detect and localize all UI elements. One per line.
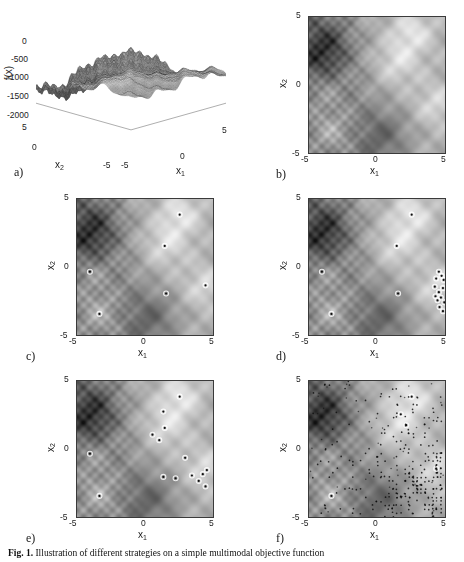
panel-b-xtick-max: 5 [441,155,446,164]
panel-a-xaxis-label: x1 [176,166,185,177]
panel-d-xtick-mid: 0 [373,337,378,346]
panel-e-markers [77,381,213,517]
panel-a-xtick-min: -5 [121,161,129,170]
panel-b-ytick-top: 5 [296,11,301,20]
surface-canvas-wrap [36,6,226,156]
panel-f-yaxis-label: x2 [278,432,289,462]
panel-b-ytick-bot: -5 [292,149,300,158]
panel-a-ytick-top: 5 [22,123,27,132]
panel-f-plot-area [308,380,446,518]
panel-f-ytick-bot: -5 [292,513,300,522]
panel-c-xaxis-label: x1 [138,348,147,359]
panel-a-xtick-mid: 0 [180,152,185,161]
panel-a-ytick-mid: 0 [32,143,37,152]
panel-b-xaxis-label: x1 [370,166,379,177]
panel-a-ztick-1500: -1500 [7,92,29,101]
panel-e-ytick-bot: -5 [60,513,68,522]
panel-b-ytick-mid: 0 [296,80,301,89]
panel-e-yaxis-label: x2 [46,432,57,462]
panel-f-markers [309,381,445,517]
panel-a-ytick-bot: -5 [103,161,111,170]
panel-e-ytick-top: 5 [64,375,69,384]
panel-c-markers [77,199,213,335]
panel-d-yaxis-label: x2 [278,250,289,280]
panel-d-plot-area [308,198,446,336]
panel-b-plot-area [308,16,446,154]
panel-b-letter: b) [276,168,286,180]
panel-f-xtick-mid: 0 [373,519,378,528]
panel-a-letter: a) [14,166,23,178]
panel-e-xtick-min: -5 [69,519,77,528]
figure-container: 0 -500 -1000 -1500 -2000 f(x) 5 0 -5 -5 … [0,0,464,562]
panel-d-letter: d) [276,350,286,362]
panel-e-xtick-mid: 0 [141,519,146,528]
panel-f-ytick-mid: 0 [296,444,301,453]
panel-f-contour-plot: 5 0 -5 -5 0 5 x2 x1 f) [232,364,464,546]
figure-caption: Fig. 1. Illustration of different strate… [8,548,460,562]
panel-f-letter: f) [276,532,284,544]
panel-a-xtick-max: 5 [222,126,227,135]
panel-d-xtick-max: 5 [441,337,446,346]
panel-c-plot-area [76,198,214,336]
panel-d-ytick-top: 5 [296,193,301,202]
panel-b-contour-plot: 5 0 -5 -5 0 5 x2 x1 b) [232,0,464,182]
figure-caption-label: Fig. 1. [8,548,33,558]
panel-e-xtick-max: 5 [209,519,214,528]
panel-c-ytick-bot: -5 [60,331,68,340]
panel-e-ytick-mid: 0 [64,444,69,453]
panel-f-xaxis-label: x1 [370,530,379,541]
panel-c-ytick-top: 5 [64,193,69,202]
panel-e-contour-plot: 5 0 -5 -5 0 5 x2 x1 e) [0,364,232,546]
panel-e-letter: e) [26,532,35,544]
panel-b-xtick-min: -5 [301,155,309,164]
panel-e-xaxis-label: x1 [138,530,147,541]
panel-f-xtick-max: 5 [441,519,446,528]
panel-c-yaxis-label: x2 [46,250,57,280]
panel-b-markers [309,17,445,153]
panel-b-xtick-mid: 0 [373,155,378,164]
panel-d-ytick-bot: -5 [292,331,300,340]
panel-c-contour-plot: 5 0 -5 -5 0 5 x2 x1 c) [0,182,232,364]
panel-a-surface-plot: 0 -500 -1000 -1500 -2000 f(x) 5 0 -5 -5 … [0,0,232,182]
surface-3d-canvas [36,6,226,156]
panel-f-ytick-top: 5 [296,375,301,384]
panel-c-ytick-mid: 0 [64,262,69,271]
panel-e-plot-area [76,380,214,518]
panel-d-xtick-min: -5 [301,337,309,346]
panel-d-ytick-mid: 0 [296,262,301,271]
panel-f-xtick-min: -5 [301,519,309,528]
panel-c-xtick-max: 5 [209,337,214,346]
figure-caption-text: Illustration of different strategies on … [35,548,324,558]
panel-a-ztick-0: 0 [22,37,27,46]
panel-d-markers [309,199,445,335]
panel-d-xaxis-label: x1 [370,348,379,359]
panel-c-xtick-min: -5 [69,337,77,346]
panel-b-yaxis-label: x2 [278,68,289,98]
panel-c-xtick-mid: 0 [141,337,146,346]
panel-d-contour-plot: 5 0 -5 -5 0 5 x2 x1 d) [232,182,464,364]
panel-a-yaxis-label: x2 [55,160,64,171]
panel-a-zaxis-label: f(x) [4,58,14,88]
panel-a-ztick-2000: -2000 [7,111,29,120]
panel-c-letter: c) [26,350,35,362]
